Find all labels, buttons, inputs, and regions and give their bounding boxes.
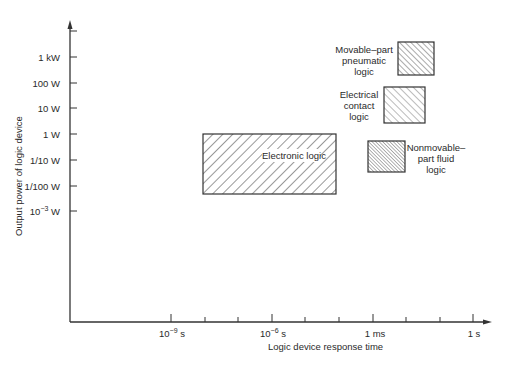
xtick-s: 1 s	[444, 328, 504, 339]
label-nonmovable-fluid: Nonmovable– part fluid logic	[405, 142, 467, 175]
y-axis	[68, 20, 78, 322]
x-axis-title: Logic device response time	[268, 341, 383, 352]
label-electrical-contact: Electrical contact logic	[337, 89, 381, 122]
box-movable-pneumatic	[398, 42, 434, 75]
ytick-1kw: 1 kW	[0, 52, 60, 63]
ytick-100w: 100 W	[0, 78, 60, 89]
x-axis-arrow-icon	[483, 320, 492, 325]
y-axis-arrow-icon	[68, 20, 73, 29]
ytick-10w: 10 W	[0, 103, 60, 114]
label-electronic-logic: Electronic logic	[262, 150, 320, 161]
box-electronic-logic	[203, 134, 336, 194]
ytick-0-1w: 1/10 W	[0, 155, 60, 166]
x-axis	[70, 314, 492, 325]
xtick-us: 10−6 s	[243, 328, 303, 339]
label-movable-pneumatic: Movable–part pneumatic logic	[332, 44, 396, 77]
chart-canvas	[0, 0, 512, 376]
ytick-1w: 1 W	[0, 129, 60, 140]
xtick-ms: 1 ms	[345, 328, 405, 339]
box-nonmovable-fluid	[368, 141, 405, 172]
box-electrical-contact	[384, 87, 425, 123]
ytick-0-01w: 1/100 W	[0, 181, 60, 192]
ytick-1mw: 10−3 W	[0, 206, 60, 217]
xtick-ns: 10−9 s	[142, 328, 202, 339]
